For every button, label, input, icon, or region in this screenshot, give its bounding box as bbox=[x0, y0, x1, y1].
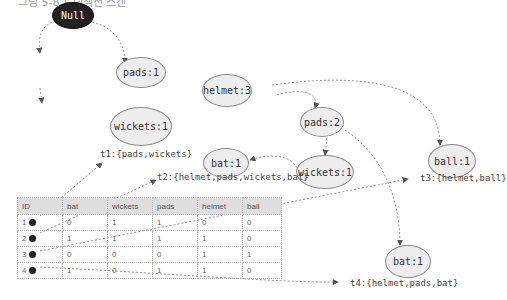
row-id: 1 bbox=[22, 218, 26, 227]
tree-node-pads-2: pads:2 bbox=[300, 107, 344, 137]
edge-helmet3-pads2 bbox=[277, 92, 316, 108]
row-dot-icon bbox=[29, 267, 36, 274]
row-id: 3 bbox=[22, 250, 26, 259]
table-row: 2 1 1 1 1 0 bbox=[18, 231, 282, 247]
column-header-wickets: wickets bbox=[108, 198, 153, 215]
transaction-label-t2: t2:{helmet,pads,wickets,bat} bbox=[157, 172, 309, 182]
table-header-row: ID bat wickets pads helmet ball bbox=[18, 198, 282, 215]
cell-ball: 0 bbox=[243, 263, 282, 279]
cell-helmet: 0 bbox=[198, 215, 243, 231]
edge-root-helmet3 bbox=[92, 22, 125, 63]
column-header-ball: ball bbox=[243, 198, 282, 215]
row-dot-icon bbox=[29, 235, 36, 242]
table-row: 3 0 0 0 1 1 bbox=[18, 247, 282, 263]
cell-wickets: 0 bbox=[108, 247, 153, 263]
edge-pads2-bat1b bbox=[345, 130, 400, 245]
cell-helmet: 1 bbox=[198, 231, 243, 247]
row-id-cell: 4 bbox=[18, 263, 63, 279]
tree-node-bat-1-bottom: bat:1 bbox=[385, 245, 431, 278]
cell-ball: 0 bbox=[243, 215, 282, 231]
column-header-pads: pads bbox=[153, 198, 198, 215]
row-id: 2 bbox=[22, 234, 26, 243]
transaction-label-t3: t3:{helmet,ball} bbox=[420, 173, 507, 183]
cell-wickets: 1 bbox=[108, 215, 153, 231]
edge-pads2-wickets1b bbox=[325, 138, 327, 155]
column-header-id: ID bbox=[18, 198, 63, 215]
tree-node-wickets-1-left: wickets:1 bbox=[110, 107, 172, 146]
cell-bat: 1 bbox=[63, 263, 108, 279]
tree-node-helmet-3: helmet:3 bbox=[202, 74, 252, 107]
edge-wickets1b-bat1a bbox=[250, 156, 297, 168]
cell-pads: 1 bbox=[153, 215, 198, 231]
edge-pads1-wickets1a bbox=[40, 88, 42, 103]
row-id: 4 bbox=[22, 266, 26, 275]
row-dot-icon bbox=[29, 219, 36, 226]
transaction-label-t4: t4:{helmet,pads,bat} bbox=[350, 278, 458, 288]
cell-helmet: 1 bbox=[198, 247, 243, 263]
tree-node-root: Null bbox=[52, 2, 94, 29]
table-row: 1 0 1 1 0 0 bbox=[18, 215, 282, 231]
cell-ball: 1 bbox=[243, 247, 282, 263]
row-id-cell: 2 bbox=[18, 231, 63, 247]
column-header-helmet: helmet bbox=[198, 198, 243, 215]
row-dot-icon bbox=[29, 251, 36, 258]
cell-bat: 1 bbox=[63, 231, 108, 247]
cell-bat: 0 bbox=[63, 247, 108, 263]
cell-pads: 1 bbox=[153, 263, 198, 279]
cell-helmet: 1 bbox=[198, 263, 243, 279]
cell-ball: 0 bbox=[243, 231, 282, 247]
column-header-bat: bat bbox=[63, 198, 108, 215]
row-id-cell: 1 bbox=[18, 215, 63, 231]
table-row: 4 1 0 1 1 0 bbox=[18, 263, 282, 279]
transaction-table: ID bat wickets pads helmet ball 1 0 1 1 … bbox=[17, 197, 282, 279]
cell-wickets: 0 bbox=[108, 263, 153, 279]
cell-pads: 1 bbox=[153, 231, 198, 247]
cell-pads: 0 bbox=[153, 247, 198, 263]
edge-root-pads1 bbox=[39, 22, 52, 53]
cell-bat: 0 bbox=[63, 215, 108, 231]
row-id-cell: 3 bbox=[18, 247, 63, 263]
edge-helmet3-ball1 bbox=[272, 80, 440, 145]
transaction-label-t1: t1:{pads,wickets} bbox=[100, 149, 192, 159]
tree-node-pads-1: pads:1 bbox=[116, 57, 166, 88]
cell-wickets: 1 bbox=[108, 231, 153, 247]
